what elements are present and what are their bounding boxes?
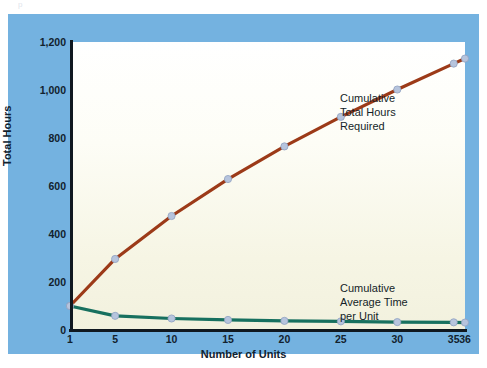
data-point-marker <box>461 55 468 62</box>
x-tick-label: 10 <box>166 333 178 345</box>
series-line <box>70 59 465 306</box>
y-tick-label: 800 <box>22 132 66 144</box>
y-tick-label: 600 <box>22 180 66 192</box>
y-tick-label: 1,000 <box>22 84 66 96</box>
y-tick-label: 200 <box>22 276 66 288</box>
annotation-average-time: Cumulative Average Time per Unit <box>340 281 408 323</box>
y-tick-labels: 02004006008001,0001,200 <box>18 14 66 368</box>
data-point-marker <box>450 60 457 67</box>
data-point-marker <box>168 315 175 322</box>
data-point-marker <box>461 319 468 326</box>
y-axis-line <box>70 40 73 332</box>
ghost-text-top: p <box>18 0 318 13</box>
annotation-total-hours: Cumulative Total Hours Required <box>340 91 396 133</box>
x-axis-title: Number of Units <box>8 348 479 360</box>
data-point-marker <box>112 312 119 319</box>
x-tick-label: 36 <box>459 333 471 345</box>
chart-panel: 02004006008001,0001,200 1510152025303536… <box>8 14 479 354</box>
data-point-marker <box>450 319 457 326</box>
x-tick-label: 1 <box>67 333 73 345</box>
x-tick-label: 30 <box>391 333 403 345</box>
x-axis-line <box>69 329 467 332</box>
x-tick-label: 15 <box>222 333 234 345</box>
x-tick-label: 20 <box>279 333 291 345</box>
data-point-marker <box>224 175 231 182</box>
learning-curve-figure: p 02004006008001,0001,200 15101520253035… <box>0 0 487 368</box>
x-tick-label: 25 <box>335 333 347 345</box>
x-tick-label: 35 <box>448 333 460 345</box>
data-point-marker <box>112 255 119 262</box>
x-tick-label: 5 <box>112 333 118 345</box>
y-axis-title: Total Hours <box>1 106 13 166</box>
data-point-marker <box>168 212 175 219</box>
y-tick-label: 400 <box>22 228 66 240</box>
data-point-marker <box>281 317 288 324</box>
data-point-marker <box>224 316 231 323</box>
y-tick-label: 1,200 <box>22 36 66 48</box>
y-tick-label: 0 <box>22 324 66 336</box>
data-point-marker <box>281 143 288 150</box>
